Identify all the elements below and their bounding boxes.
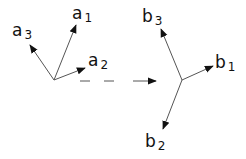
label-a3: a3	[12, 22, 32, 41]
label-a2: a2	[88, 52, 108, 71]
vector-a2	[54, 68, 85, 80]
diagram-canvas	[0, 0, 246, 159]
label-a1: a1	[72, 5, 92, 24]
label-b3: b3	[142, 8, 162, 27]
frame-transformation-diagram: a1 a2 a3 b1 b2 b3	[0, 0, 246, 159]
vector-b3	[161, 29, 182, 80]
label-b1: b1	[215, 54, 235, 73]
label-b2: b2	[145, 133, 165, 152]
vector-a3	[30, 45, 54, 80]
vector-b2	[163, 80, 182, 129]
frame-b	[161, 29, 213, 129]
frame-a	[30, 25, 85, 80]
vector-a1	[54, 25, 76, 80]
vector-b1	[182, 66, 213, 80]
